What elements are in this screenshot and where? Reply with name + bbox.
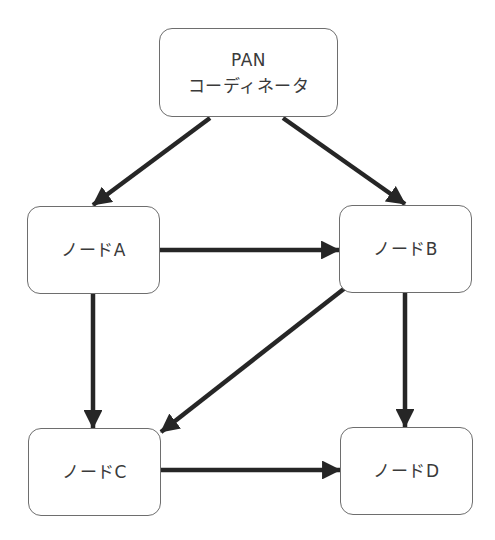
node-a-label: ノードA <box>61 237 126 263</box>
node-b: ノードB <box>339 205 472 293</box>
pan-coordinator-label-line1: PAN <box>231 47 266 73</box>
node-b-label: ノードB <box>373 236 438 262</box>
node-c: ノードC <box>28 428 161 516</box>
pan-coordinator-label-line2: コーディネータ <box>188 73 310 99</box>
node-d: ノードD <box>340 427 473 515</box>
node-a: ノードA <box>27 206 160 294</box>
arrow-0 <box>93 118 210 205</box>
arrow-1 <box>283 118 405 204</box>
node-d-label: ノードD <box>373 458 439 484</box>
network-diagram: PAN コーディネータ ノードA ノードB ノードC ノードD <box>0 0 495 540</box>
pan-coordinator-node: PAN コーディネータ <box>159 28 338 117</box>
arrow-4 <box>161 288 345 432</box>
node-c-label: ノードC <box>62 459 127 485</box>
